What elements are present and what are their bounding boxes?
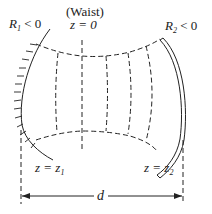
wavefront-3	[106, 56, 108, 131]
r1-label: R1 < 0	[8, 16, 41, 33]
distance-label: d	[97, 188, 105, 203]
z1-label: z = z1	[34, 160, 64, 177]
arrowhead-left-icon	[22, 193, 30, 199]
right-mirror-inner	[157, 40, 182, 175]
z0-label: z = 0	[69, 17, 97, 32]
arrowhead-right-icon	[174, 193, 182, 199]
wavefront-1	[56, 53, 58, 132]
r2-label: R2 < 0	[164, 18, 197, 35]
wavefront-4	[128, 53, 131, 134]
z2-label: z = z2	[143, 160, 173, 177]
beam-envelope-bottom-line	[36, 131, 157, 151]
left-mirror-hatching	[14, 44, 37, 148]
beam-envelope-top	[36, 39, 160, 57]
left-mirror	[24, 28, 52, 151]
wavefront-5	[146, 46, 152, 141]
resonator-diagram: R1 < 0 (Waist) z = 0 R2 < 0 z = z1 z = z…	[0, 0, 212, 214]
